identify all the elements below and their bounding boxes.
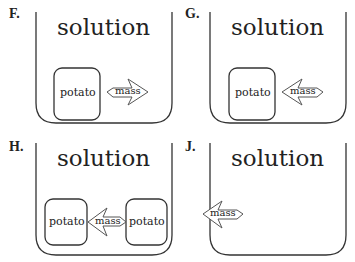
potato-label-right: potato (129, 215, 165, 228)
mass-label: mass (115, 85, 141, 96)
panel-label: G. (185, 6, 199, 22)
mass-label: mass (95, 215, 121, 226)
solution-title: solution (57, 14, 150, 40)
panel-label: H. (9, 139, 23, 155)
potato-label: potato (60, 86, 96, 99)
panel-label: J. (185, 139, 196, 155)
mass-label: mass (210, 207, 236, 218)
mass-label: mass (290, 85, 316, 96)
panel-label: F. (9, 6, 20, 22)
solution-title: solution (57, 145, 150, 171)
potato-label-left: potato (49, 215, 85, 228)
solution-title: solution (231, 145, 324, 171)
potato-label: potato (235, 86, 271, 99)
solution-title: solution (231, 14, 324, 40)
